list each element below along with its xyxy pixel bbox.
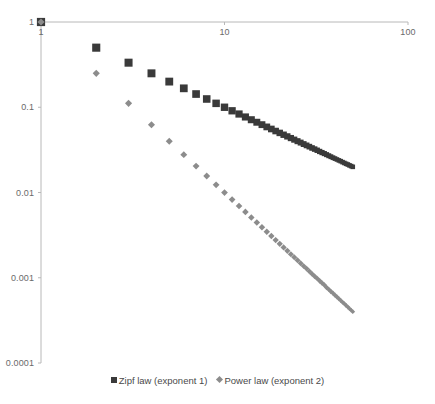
data-point xyxy=(180,151,187,158)
data-point xyxy=(192,90,200,98)
data-point xyxy=(93,70,100,77)
data-point xyxy=(268,233,274,239)
data-point xyxy=(221,189,228,196)
data-point xyxy=(221,104,228,111)
data-point xyxy=(212,100,219,107)
data-point xyxy=(213,181,220,188)
y-axis-tick-label: 0.001 xyxy=(0,273,34,283)
data-point xyxy=(165,78,173,86)
data-point xyxy=(273,237,279,243)
data-point xyxy=(166,138,173,145)
data-point xyxy=(235,110,242,117)
y-axis-tick-label: 0.1 xyxy=(0,102,34,112)
data-point xyxy=(125,59,133,67)
legend-square-icon xyxy=(111,377,117,383)
data-point xyxy=(203,173,210,180)
data-point xyxy=(203,95,211,103)
data-points xyxy=(37,18,355,314)
data-point xyxy=(242,209,249,216)
x-axis-tick-label: 1 xyxy=(38,27,43,37)
legend-diamond-icon xyxy=(216,376,223,383)
legend-entry[interactable]: Power law (exponent 2) xyxy=(217,374,324,386)
chart-legend: Zipf law (exponent 1)Power law (exponent… xyxy=(0,374,435,386)
data-point xyxy=(254,219,261,226)
data-point xyxy=(248,214,255,221)
data-point xyxy=(259,224,265,230)
x-axis-tick-label: 100 xyxy=(400,27,415,37)
legend-label: Zipf law (exponent 1) xyxy=(119,375,208,386)
legend-label: Power law (exponent 2) xyxy=(224,375,324,386)
data-point xyxy=(228,107,235,114)
legend-entry[interactable]: Zipf law (exponent 1) xyxy=(111,374,208,386)
plot-area xyxy=(0,0,435,404)
data-point xyxy=(92,44,100,52)
data-point xyxy=(236,203,243,210)
data-point xyxy=(350,165,355,170)
x-axis-tick-label: 10 xyxy=(219,27,229,37)
data-point xyxy=(180,84,188,92)
data-point xyxy=(193,163,200,170)
data-point xyxy=(148,69,156,77)
data-point xyxy=(125,100,132,107)
y-axis-tick-label: 1 xyxy=(0,17,34,27)
y-axis-tick-label: 0.01 xyxy=(0,188,34,198)
data-point xyxy=(229,196,236,203)
y-axis-tick-label: 0.0001 xyxy=(0,358,34,368)
log-log-chart: 10.10.010.0010.0001110100 Zipf law (expo… xyxy=(0,0,435,404)
data-point xyxy=(148,121,155,128)
data-point xyxy=(264,229,270,235)
